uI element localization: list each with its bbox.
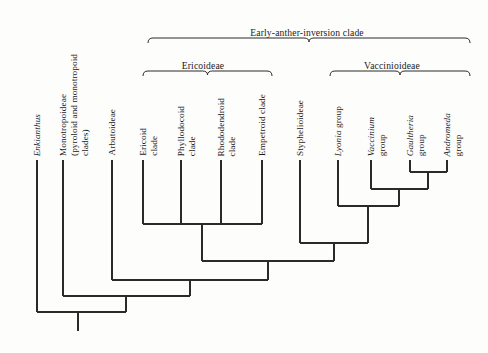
- clade-label-vaccinioideae: Vaccinioideae: [364, 60, 420, 71]
- clade-bracket-ericoideae: [143, 71, 272, 76]
- tip-label-ericoid-clade: Ericoidclade: [138, 128, 160, 156]
- tip-label-monotropoideae: Monotropoideae(pyroloid and monotropoidc…: [58, 54, 91, 156]
- tip-label-gaultheria-group: Gaultheriagroup: [405, 115, 427, 156]
- tip-label-styphelioideae: Styphelioideae: [295, 100, 306, 156]
- clade-label-ericoideae: Ericoideae: [182, 60, 225, 71]
- clade-bracket-early-anther-inversion-clade: [148, 38, 470, 43]
- tip-label-enkianthus: Enkianthus: [32, 114, 43, 156]
- cladogram-figure: EnkianthusMonotropoideae(pyroloid and mo…: [0, 0, 488, 353]
- tip-label-andromeda-group: Andromedagroup: [442, 113, 464, 156]
- tip-label-phyllodocoid-clade: Phyllodocoidclade: [176, 106, 198, 156]
- tip-label-rhododendroid-clade: Rhododendroidclade: [216, 98, 238, 156]
- tip-label-empetroid-clade: Empetroid clade: [257, 94, 268, 156]
- cladogram-branches: [0, 0, 488, 353]
- tip-label-vaccinium-group: Vacciniumgroup: [366, 117, 388, 156]
- clade-bracket-vaccinioideae: [330, 71, 470, 76]
- tip-label-lyonia-group: Lyonia group: [333, 106, 344, 156]
- tip-label-arbutoideae: Arbutoideae: [107, 109, 118, 156]
- clade-label-early-anther-inversion-clade: Early-anther-inversion clade: [250, 27, 363, 38]
